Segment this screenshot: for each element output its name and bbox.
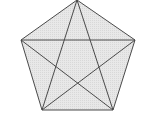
pentagon-fill	[21, 0, 135, 110]
pentagon-diagram	[0, 0, 145, 122]
